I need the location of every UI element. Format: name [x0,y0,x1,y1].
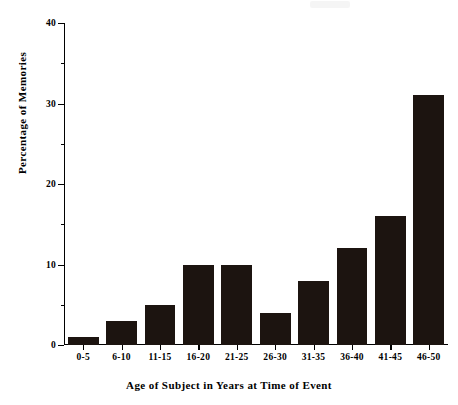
x-tick [122,345,123,350]
x-tick-label: 36-40 [340,352,364,362]
scan-artifact [310,1,350,8]
y-tick-label: 20 [46,179,56,189]
bar [106,321,137,345]
x-tick [237,345,238,350]
x-tick-label: 31-35 [302,352,326,362]
x-tick [429,345,430,350]
y-tick-label: 40 [46,18,56,28]
x-tick-label: 6-10 [112,352,131,362]
y-tick-major [58,345,64,346]
x-tick-label: 0-5 [76,352,90,362]
x-axis-title: Age of Subject in Years at Time of Event [0,379,458,391]
bar [260,313,291,345]
y-tick-label: 30 [46,99,56,109]
bar [145,305,176,345]
x-tick-label: 41-45 [379,352,403,362]
bar-series [64,23,448,345]
bar [68,337,99,345]
x-tick [160,345,161,350]
x-tick [83,345,84,350]
x-tick [275,345,276,350]
bar [375,216,406,345]
bar [221,265,252,346]
x-tick-label: 46-50 [417,352,441,362]
x-tick [352,345,353,350]
x-tick [314,345,315,350]
x-tick-label: 11-15 [148,352,171,362]
y-tick-label: 10 [46,260,56,270]
x-tick-label: 26-30 [263,352,287,362]
y-axis-title: Percentage of Memories [16,33,28,193]
bar-chart-figure: Percentage of Memories 010203040 0-56-10… [0,0,458,405]
x-tick-label: 21-25 [225,352,249,362]
plot-area: 010203040 [64,23,448,345]
bar [413,95,444,345]
bar [298,281,329,345]
x-tick [390,345,391,350]
bar [337,248,368,345]
x-tick [198,345,199,350]
bar [183,265,214,346]
y-tick-label: 0 [51,340,56,350]
x-tick-label: 16-20 [187,352,211,362]
